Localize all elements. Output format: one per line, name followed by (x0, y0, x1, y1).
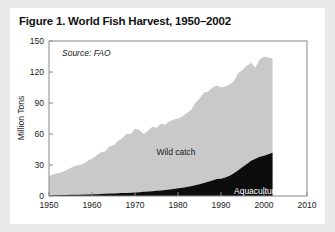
chart-plot-area: 0306090120150 19501960197019801990200020… (10, 8, 325, 224)
y-tick-label: 90 (35, 98, 45, 108)
fish-harvest-area-chart: 0306090120150 19501960197019801990200020… (10, 8, 325, 224)
y-tick-label: 30 (35, 160, 45, 170)
y-axis-title: Million Tons (16, 96, 26, 140)
x-tick-label: 1970 (126, 200, 145, 210)
x-tick-label: 2010 (298, 200, 317, 210)
series-label-aquaculture: Aquaculture (234, 186, 280, 196)
x-tick-label: 2000 (255, 200, 274, 210)
y-tick-label: 120 (30, 67, 44, 77)
y-tick-label: 150 (30, 36, 44, 46)
figure-card: Figure 1. World Fish Harvest, 1950–2002 … (10, 8, 325, 224)
source-note: Source: FAO (62, 48, 111, 58)
series-label-wild-catch: Wild catch (156, 147, 195, 157)
x-tick-label: 1980 (169, 200, 188, 210)
x-tick-label: 1950 (40, 200, 59, 210)
x-tick-label: 1960 (83, 200, 102, 210)
x-tick-label: 1990 (212, 200, 231, 210)
y-tick-label: 60 (35, 129, 45, 139)
